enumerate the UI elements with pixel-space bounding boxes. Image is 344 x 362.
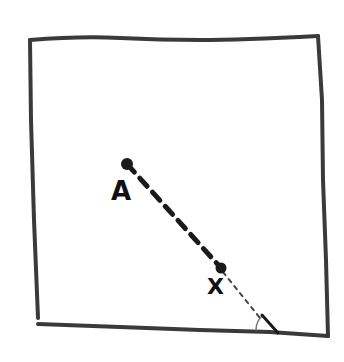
box (30, 36, 328, 336)
segment-x-bottom (223, 272, 260, 318)
box-left-edge (30, 40, 38, 318)
point-a-label: A (111, 178, 131, 204)
segment-a-x (127, 164, 221, 268)
diagram-canvas (0, 0, 344, 362)
point-x-dot (216, 263, 227, 274)
point-a-dot (121, 158, 133, 170)
point-x-label: X (207, 276, 224, 298)
box-bottom-edge (38, 324, 328, 336)
box-top-edge (30, 36, 318, 40)
box-right-edge (318, 36, 328, 336)
